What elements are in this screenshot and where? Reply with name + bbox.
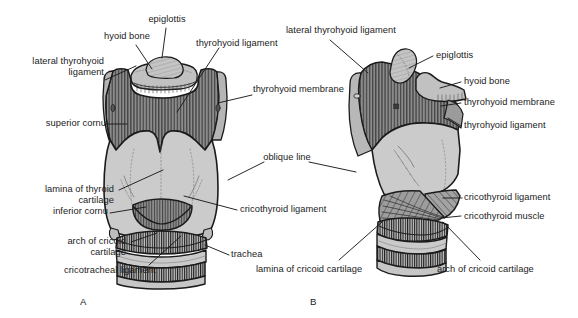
panel-letter-b: B bbox=[310, 296, 317, 307]
leader-b-arch-of-cricoid bbox=[443, 222, 480, 260]
leader-a-trachea bbox=[205, 245, 229, 255]
label-b-cricothyroid-muscle: cricothyroid muscle bbox=[464, 211, 572, 222]
lamina-of-thyroid-cartilage-b bbox=[372, 123, 460, 199]
arch-of-cricoid-cartilage-shape bbox=[116, 231, 207, 254]
leader-b-lamina-of-cricoid bbox=[339, 222, 382, 260]
leader-b-lateral-thyrohyoid-ligament bbox=[330, 40, 368, 73]
label-a-epiglottis: epiglottis bbox=[137, 14, 197, 25]
label-a-lamina-of-thyroid-cartilage-line1: lamina of thyroid bbox=[12, 184, 114, 195]
label-a-lamina-of-thyroid-cartilage-line2: cartilage bbox=[12, 195, 114, 206]
label-a-superior-cornu: superior cornu bbox=[28, 118, 106, 129]
label-a-oblique-line: oblique line bbox=[262, 152, 312, 163]
label-b-lamina-of-cricoid-cartilage: lamina of cricoid cartilage bbox=[256, 264, 396, 275]
label-a-cricotracheal-ligament: cricotracheal ligament bbox=[64, 265, 184, 276]
label-a-trachea: trachea bbox=[231, 249, 279, 260]
panel-letter-a: A bbox=[80, 296, 87, 307]
label-a-lateral-thyrohyoid-ligament-line2: ligament bbox=[12, 67, 104, 78]
hyoid-bone-b bbox=[416, 73, 466, 102]
label-a-thyrohyoid-ligament: thyrohyoid ligament bbox=[196, 38, 304, 49]
label-a-lateral-thyrohyoid-ligament-line1: lateral thyrohyoid bbox=[12, 56, 104, 67]
leader-a-oblique-line-right-to-b bbox=[309, 162, 356, 172]
panel-b-illustration bbox=[349, 49, 466, 276]
label-b-epiglottis: epiglottis bbox=[436, 50, 498, 61]
label-b-cricothyroid-ligament: cricothyroid ligament bbox=[464, 192, 576, 203]
label-b-thyrohyoid-ligament: thyrohyoid ligament bbox=[464, 120, 574, 131]
leader-a-oblique-line-left bbox=[228, 162, 264, 180]
label-b-lateral-thyrohyoid-ligament: lateral thyrohyoid ligament bbox=[286, 25, 414, 36]
label-b-hyoid-bone: hyoid bone bbox=[464, 76, 534, 87]
label-a-thyrohyoid-membrane: thyrohyoid membrane bbox=[253, 84, 369, 95]
label-a-hyoid-bone: hyoid bone bbox=[104, 31, 168, 42]
label-a-cricothyroid-ligament: cricothyroid ligament bbox=[240, 204, 354, 215]
figure-canvas: epiglottis hyoid bone thyrohyoid ligamen… bbox=[0, 0, 578, 318]
label-a-inferior-cornu: inferior cornu bbox=[12, 206, 108, 217]
label-a-arch-of-cricoid-cartilage-line1: arch of cricoid bbox=[22, 236, 126, 247]
label-b-thyrohyoid-membrane: thyrohyoid membrane bbox=[464, 97, 578, 108]
label-b-arch-of-cricoid-cartilage: arch of cricoid cartilage bbox=[437, 264, 573, 275]
label-a-arch-of-cricoid-cartilage-line2: cartilage bbox=[22, 247, 126, 258]
